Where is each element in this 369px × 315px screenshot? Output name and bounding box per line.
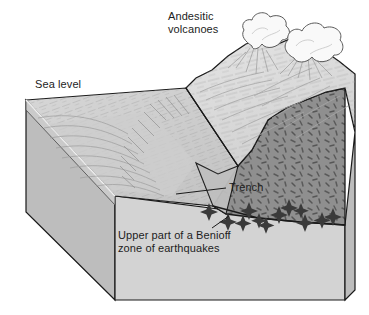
label-benioff-zone: Upper part of a Benioff zone of earthqua… xyxy=(118,229,231,254)
plume-right xyxy=(285,23,343,62)
label-sea-level: Sea level xyxy=(35,78,81,91)
label-andesitic-line1: Andesitic xyxy=(168,10,218,23)
label-andesitic-line2: volcanoes xyxy=(168,23,218,36)
subduction-zone-diagram: Andesitic volcanoes Sea level Trench Upp… xyxy=(0,0,369,315)
label-benioff-line2: zone of earthquakes xyxy=(118,242,231,255)
label-trench: Trench xyxy=(229,181,263,194)
label-andesitic-volcanoes: Andesitic volcanoes xyxy=(168,10,218,35)
label-benioff-line1: Upper part of a Benioff xyxy=(118,229,231,242)
block-right-face xyxy=(345,132,355,300)
diagram-canvas xyxy=(0,0,369,315)
